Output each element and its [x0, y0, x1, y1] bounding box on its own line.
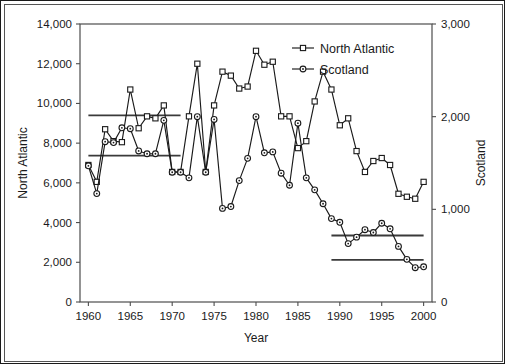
data-point-center	[113, 142, 115, 144]
x-axis-tick-label: 1995	[369, 310, 395, 322]
data-point-marker	[396, 191, 401, 196]
data-point-center	[289, 184, 291, 186]
x-axis-tick-label: 1965	[117, 310, 143, 322]
x-axis-tick-label: 1970	[159, 310, 185, 322]
y-axis-tick-label: 8,000	[43, 137, 72, 149]
data-point-center	[263, 152, 265, 154]
y-axis-tick-label: 4,000	[43, 217, 72, 229]
data-point-center	[230, 206, 232, 208]
data-point-marker	[144, 114, 149, 119]
data-point-center	[314, 189, 316, 191]
data-point-marker	[379, 155, 384, 160]
data-point-marker	[337, 123, 342, 128]
data-point-marker	[329, 87, 334, 92]
series-scotland	[85, 114, 426, 271]
data-point-center	[255, 116, 257, 118]
data-point-center	[87, 165, 89, 167]
data-point-marker	[279, 114, 284, 119]
x-axis-tick-label: 1990	[327, 310, 353, 322]
y-axis-tick-label: 10,000	[37, 97, 72, 109]
data-point-marker	[270, 59, 275, 64]
legend-item-scotland[interactable]: Scotland	[292, 63, 369, 77]
x-axis-title: Year	[244, 331, 268, 345]
y2-axis-tick-label: 3,000	[441, 18, 470, 30]
data-point-center	[272, 151, 274, 153]
data-point-center	[222, 208, 224, 210]
data-point-center	[297, 122, 299, 124]
data-point-marker	[404, 194, 409, 199]
data-point-marker	[228, 73, 233, 78]
data-point-marker	[119, 140, 124, 145]
data-point-center	[121, 127, 123, 129]
y2-axis-tick-label: 1,000	[441, 203, 470, 215]
y2-axis-tick-label: 2,000	[441, 111, 470, 123]
data-point-center	[138, 150, 140, 152]
data-point-center	[238, 180, 240, 182]
x-axis-tick-label: 1985	[285, 310, 311, 322]
data-point-center	[398, 246, 400, 248]
x-axis-tick-label: 1980	[243, 310, 269, 322]
data-point-center	[171, 171, 173, 173]
data-point-center	[414, 267, 416, 269]
data-point-center	[247, 157, 249, 159]
data-point-marker	[237, 86, 242, 91]
data-point-center	[196, 116, 198, 118]
data-point-center	[163, 119, 165, 121]
data-point-center	[302, 68, 304, 70]
data-point-marker	[304, 139, 309, 144]
figure-container: 02,0004,0006,0008,00010,00012,00014,0000…	[0, 0, 505, 364]
data-point-marker	[295, 146, 300, 151]
data-point-center	[155, 153, 157, 155]
data-point-marker	[195, 61, 200, 66]
data-point-center	[305, 177, 307, 179]
data-point-marker	[354, 148, 359, 153]
series-line	[88, 51, 423, 199]
data-point-center	[381, 222, 383, 224]
data-point-marker	[186, 114, 191, 119]
data-point-center	[213, 119, 215, 121]
data-point-center	[364, 229, 366, 231]
series-line	[88, 117, 423, 268]
data-point-center	[423, 266, 425, 268]
y2-axis-tick-label: 0	[441, 296, 447, 308]
legend-item-north-atlantic[interactable]: North Atlantic	[292, 42, 394, 56]
series-north-atlantic	[86, 48, 426, 201]
data-point-center	[280, 172, 282, 174]
data-point-center	[389, 228, 391, 230]
data-point-marker	[413, 196, 418, 201]
data-point-marker	[421, 179, 426, 184]
legend-label: Scotland	[320, 63, 369, 77]
data-point-center	[406, 258, 408, 260]
data-point-marker	[346, 116, 351, 121]
data-point-center	[96, 193, 98, 195]
data-point-marker	[362, 169, 367, 174]
x-axis-tick-label: 1960	[76, 310, 102, 322]
data-point-center	[146, 153, 148, 155]
y-axis-title: North Atlantic	[16, 127, 30, 198]
data-point-marker	[253, 48, 258, 53]
data-point-marker	[371, 158, 376, 163]
data-point-center	[104, 141, 106, 143]
data-point-marker	[312, 99, 317, 104]
data-point-marker	[161, 103, 166, 108]
data-point-center	[356, 236, 358, 238]
data-point-marker	[211, 103, 216, 108]
data-point-center	[322, 203, 324, 205]
data-point-marker	[136, 126, 141, 131]
data-point-marker	[287, 114, 292, 119]
figure-inner-border: 02,0004,0006,0008,00010,00012,00014,0000…	[4, 4, 503, 362]
data-point-center	[339, 221, 341, 223]
y-axis-tick-label: 6,000	[43, 177, 72, 189]
y-axis-tick-label: 12,000	[37, 58, 72, 70]
chart-svg: 02,0004,0006,0008,00010,00012,00014,0000…	[5, 5, 504, 363]
legend-label: North Atlantic	[320, 42, 394, 56]
data-point-center	[372, 232, 374, 234]
data-point-marker	[103, 127, 108, 132]
data-point-marker	[220, 69, 225, 74]
y2-axis-title: Scotland	[474, 140, 488, 187]
x-axis-tick-label: 2000	[411, 310, 437, 322]
x-axis-tick-label: 1975	[201, 310, 227, 322]
data-point-marker	[387, 162, 392, 167]
data-point-marker	[245, 84, 250, 89]
data-point-center	[188, 177, 190, 179]
